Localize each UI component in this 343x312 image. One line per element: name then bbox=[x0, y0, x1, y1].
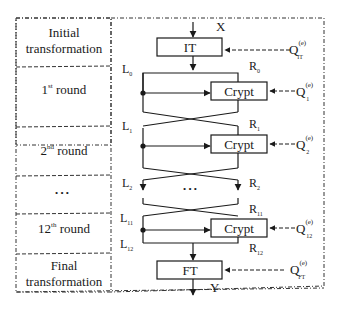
left-label-l12: L12 bbox=[120, 237, 133, 252]
crypt-block-round1-label: Crypt bbox=[224, 84, 254, 99]
key-label-round12: Q(e)12 bbox=[296, 218, 314, 239]
left-label-l0: L0 bbox=[122, 62, 132, 77]
it-block-label: IT bbox=[184, 40, 196, 55]
stage-label-initial: Initial bbox=[48, 25, 79, 40]
left-label-l1: L1 bbox=[122, 119, 132, 134]
crypt-block-round12-label: Crypt bbox=[224, 221, 254, 236]
right-label-r0: R0 bbox=[249, 59, 260, 74]
left-label-l2: L2 bbox=[122, 176, 132, 191]
stage-label-round2: 2nd round bbox=[40, 143, 88, 158]
stage-label-ellipsis: • • • bbox=[55, 188, 69, 198]
ft-block-label: FT bbox=[182, 263, 197, 278]
right-label-r11: R11 bbox=[249, 202, 263, 217]
encryption-diagram: Initial transformation 1st round 2nd rou… bbox=[0, 0, 343, 312]
key-label-round2: Q(e)2 bbox=[296, 134, 314, 155]
stage-label-round12: 12th round bbox=[38, 221, 91, 236]
stage-label-round1: 1st round bbox=[42, 82, 87, 97]
input-label-x: X bbox=[216, 19, 226, 34]
right-label-r1: R1 bbox=[249, 117, 260, 132]
middle-ellipsis: • • • bbox=[183, 184, 197, 194]
round12-merge bbox=[143, 237, 238, 243]
key-label-it: Q(e)IT bbox=[289, 39, 307, 60]
stage-label-final: Final bbox=[51, 258, 78, 273]
right-label-r12: R12 bbox=[249, 241, 263, 256]
key-label-round1: Q(e)1 bbox=[296, 81, 314, 102]
stage-label-final-2: transformation bbox=[26, 274, 103, 289]
stage-label-initial-2: transformation bbox=[26, 41, 103, 56]
crypt-block-round2-label: Crypt bbox=[224, 137, 254, 152]
output-label-y: Y bbox=[210, 280, 220, 295]
left-label-l11: L11 bbox=[120, 211, 133, 226]
right-label-r2: R2 bbox=[249, 176, 260, 191]
key-label-ft: Q(e)FT bbox=[290, 259, 308, 280]
